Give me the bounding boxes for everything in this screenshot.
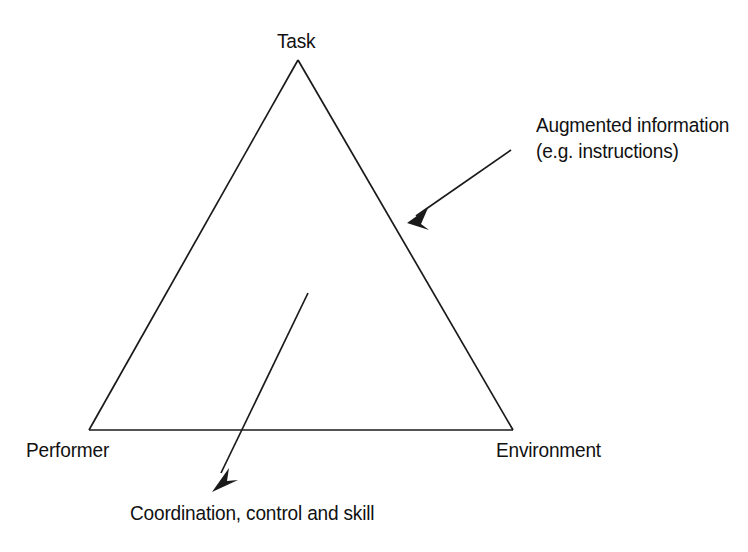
diagram-canvas: Task Performer Environment Augmented inf… <box>0 0 748 552</box>
annotation-augmented-information: Augmented information (e.g. instructions… <box>536 112 736 164</box>
coordination-arrow-head <box>212 468 238 492</box>
annotation-augmented-line1: Augmented information <box>536 112 736 138</box>
augmented-arrow-head <box>407 208 429 230</box>
annotation-augmented-line2: (e.g. instructions) <box>536 138 736 164</box>
coordination-arrow <box>212 293 308 492</box>
diagram-graphics <box>0 0 748 552</box>
augmented-information-arrow <box>407 150 511 230</box>
annotation-coordination-control-skill: Coordination, control and skill <box>130 500 374 526</box>
augmented-arrow-shaft <box>416 150 511 216</box>
triangle-shape <box>89 60 513 430</box>
triangle-left-edge <box>89 60 298 430</box>
triangle-right-edge <box>298 60 513 430</box>
coordination-arrow-shaft <box>221 293 308 473</box>
vertex-label-task: Task <box>277 28 315 54</box>
vertex-label-performer: Performer <box>26 437 109 463</box>
vertex-label-environment: Environment <box>496 437 601 463</box>
